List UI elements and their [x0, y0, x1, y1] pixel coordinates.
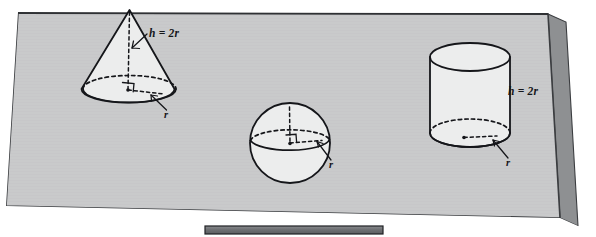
- cylinder-height-label: h = 2r: [508, 85, 538, 97]
- slab-top-white-wedge: [0, 0, 596, 13]
- cone-height-label: h = 2r: [149, 27, 179, 39]
- figure-page: h = 2r r: [0, 0, 596, 237]
- geometry-figure: h = 2r r: [0, 0, 596, 237]
- bottom-gray-bar: [205, 226, 383, 234]
